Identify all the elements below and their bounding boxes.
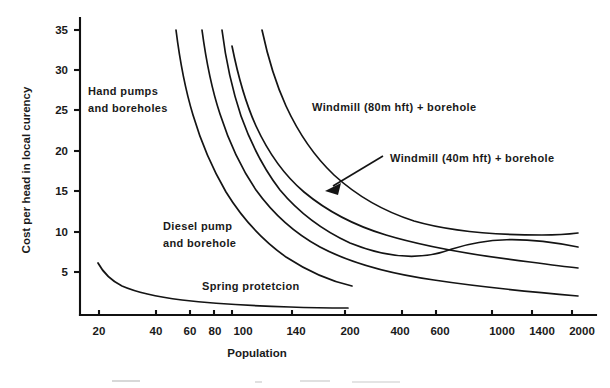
y-axis-title: Cost per head in local curency xyxy=(20,86,32,253)
curve-windmill-80m-borehole xyxy=(262,30,578,235)
label-spring-protetcion: Spring protetcion xyxy=(202,280,300,292)
data-curves-group xyxy=(98,30,578,308)
y-tick-label-5: 5 xyxy=(62,266,69,278)
clipped-caption-remnant xyxy=(112,381,400,382)
label-diesel-pump-line1: Diesel pump xyxy=(163,220,232,232)
annotation-arrow-shaft xyxy=(333,156,383,186)
x-tick-label-1400: 1400 xyxy=(529,325,555,337)
x-tick-label-100: 100 xyxy=(233,325,252,337)
y-tick-label-25: 25 xyxy=(55,104,68,116)
x-tick-label-140: 140 xyxy=(286,325,305,337)
x-tick-label-20: 20 xyxy=(93,325,106,337)
x-tick-label-1000: 1000 xyxy=(489,325,515,337)
axes-group xyxy=(80,18,596,315)
y-tick-label-35: 35 xyxy=(55,24,68,36)
label-hand-pumps-line2: and boreholes xyxy=(88,102,168,114)
y-tick-label-20: 20 xyxy=(55,145,68,157)
series-labels-group: Hand pumps and boreholes Diesel pump and… xyxy=(88,85,554,292)
label-windmill-40m: Windmill (40m hft) + borehole xyxy=(390,152,554,164)
annotation-arrow-head-icon xyxy=(325,183,341,195)
x-tick-label-600: 600 xyxy=(430,325,449,337)
x-tick-label-200: 200 xyxy=(340,325,359,337)
x-tick-label-400: 400 xyxy=(390,325,409,337)
x-tick-label-40: 40 xyxy=(150,325,163,337)
chart-figure: 35 30 25 20 15 10 5 20 40 60 xyxy=(0,0,610,388)
y-tick-label-10: 10 xyxy=(55,226,68,238)
x-tick-labels: 20 40 60 80 100 140 200 400 600 1000 140… xyxy=(93,325,595,337)
x-tick-label-2000: 2000 xyxy=(569,325,595,337)
x-tick-label-60: 60 xyxy=(184,325,197,337)
y-tick-label-15: 15 xyxy=(55,185,68,197)
x-axis-title: Population xyxy=(227,347,286,359)
label-windmill-80m: Windmill (80m hft) + borehole xyxy=(312,101,476,113)
label-hand-pumps-line1: Hand pumps xyxy=(88,85,158,97)
curve-diesel-pump-borehole xyxy=(222,30,578,256)
x-tick-label-80: 80 xyxy=(209,325,222,337)
chart-canvas: 35 30 25 20 15 10 5 20 40 60 xyxy=(0,0,610,388)
y-tick-labels: 35 30 25 20 15 10 5 xyxy=(55,24,68,278)
label-diesel-pump-line2: and borehole xyxy=(163,237,236,249)
y-tick-label-30: 30 xyxy=(55,64,68,76)
